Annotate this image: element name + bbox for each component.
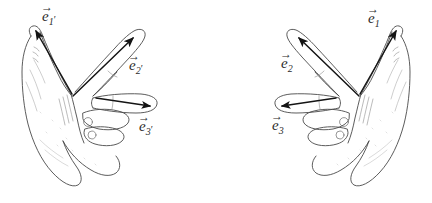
right-hand-arrows: [282, 31, 396, 106]
label-e1-prime: e→1′: [42, 8, 56, 24]
label-e2: e→2: [281, 55, 293, 71]
label-e3-prime-subscript: 3: [146, 126, 151, 137]
right-hand-web-fold-2: [359, 95, 373, 125]
left-hand-thumb-outline: [29, 26, 71, 94]
arrow-e3: [282, 98, 336, 106]
right-hand-middle-outline: [275, 94, 339, 113]
label-e2-subscript: 2: [288, 63, 293, 74]
label-e3-prime-mark: ′: [151, 124, 153, 135]
label-e1-prime-subscript: 1: [49, 16, 54, 27]
left-hand-palm-lower-edge: [63, 141, 120, 175]
label-e1-prime-mark: ′: [54, 14, 56, 25]
label-e3-prime: e→3′: [139, 118, 153, 134]
hand-triad-figure: e→1′ e→2′ e→3′ e→1 e→2 e→3: [0, 0, 432, 203]
right-hand-index-outline: [287, 29, 357, 96]
label-e2-prime: e→2′: [129, 57, 143, 73]
left-hand-web-fold: [71, 94, 84, 143]
label-e3-subscript: 3: [279, 125, 284, 136]
label-e2-prime-mark: ′: [141, 63, 143, 74]
left-hand-middle-base: [92, 98, 94, 108]
label-e3: e→3: [272, 117, 284, 133]
right-hand-palm-lower-edge: [312, 141, 369, 175]
hand-drawing-canvas: [0, 0, 432, 203]
arrow-e1: [360, 31, 396, 94]
left-hand-middle-crease: [112, 96, 113, 109]
label-e3-prime-overarrow: →: [138, 111, 149, 123]
label-e3-overarrow: →: [271, 110, 282, 122]
label-e1-prime-overarrow: →: [41, 1, 52, 13]
right-hand-middle-base: [339, 98, 341, 108]
right-hand-thumb-outline: [361, 26, 403, 94]
label-e2-prime-overarrow: →: [128, 50, 139, 62]
label-e2-overarrow: →: [280, 48, 291, 60]
label-e1-subscript: 1: [375, 18, 380, 29]
left-hand-web-fold-2: [59, 95, 73, 125]
right-hand-drawing: [275, 26, 410, 186]
right-hand-thenar-shading: [387, 60, 406, 111]
left-hand-knuckle-lower: [88, 131, 96, 139]
arrow-e1-prime: [36, 31, 72, 94]
right-hand-web-fold: [348, 94, 361, 143]
right-hand-knuckle-lower: [336, 131, 344, 139]
label-e1: e→1: [368, 10, 380, 26]
right-hand-middle-crease: [319, 96, 320, 109]
left-hand-thenar-shading: [26, 60, 45, 111]
label-e1-overarrow: →: [367, 3, 378, 15]
label-e2-prime-subscript: 2: [136, 65, 141, 76]
arrow-e3-prime: [96, 98, 150, 106]
left-hand-palm-speckle: [40, 112, 96, 165]
